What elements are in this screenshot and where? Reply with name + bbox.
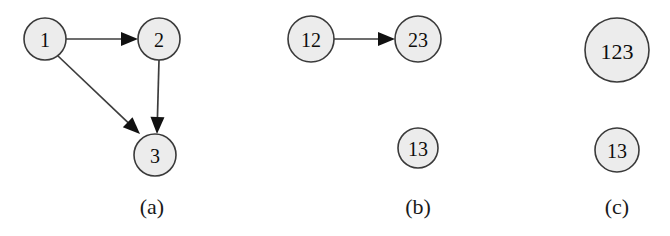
- node-label-a2: 2: [154, 29, 164, 51]
- node-label-b23: 23: [408, 29, 428, 51]
- node-label-b13: 13: [408, 138, 428, 160]
- panel-caption-a: (a): [140, 194, 164, 219]
- panel-group-a: 123(a): [24, 18, 180, 219]
- node-b12[interactable]: 12: [288, 16, 334, 62]
- edge-a-2-3: [150, 60, 164, 134]
- node-label-a3: 3: [150, 145, 160, 167]
- edge-b-12-23: [334, 32, 395, 46]
- edge-line-a-1-3: [58, 56, 129, 124]
- arrowhead-icon-a-1-2: [121, 32, 138, 46]
- edge-a-1-3: [58, 56, 140, 134]
- node-label-b12: 12: [301, 29, 321, 51]
- panel-caption-b: (b): [405, 194, 431, 219]
- panel-group-c: 12313(c): [585, 18, 649, 219]
- arrowhead-icon-a-2-3: [150, 117, 164, 134]
- figure-container: 123(a) 122313(b) 12313(c): [0, 0, 670, 236]
- node-b13[interactable]: 13: [398, 128, 438, 168]
- node-c123[interactable]: 123: [585, 18, 649, 82]
- panel-group-b: 122313(b): [288, 16, 441, 219]
- node-label-a1: 1: [40, 29, 50, 51]
- node-label-c13: 13: [607, 140, 627, 162]
- node-c13[interactable]: 13: [595, 128, 639, 172]
- edge-a-1-2: [66, 32, 138, 46]
- panel-caption-c: (c): [605, 194, 629, 219]
- arrowhead-icon-b-12-23: [378, 32, 395, 46]
- node-a1[interactable]: 1: [24, 18, 66, 60]
- node-a3[interactable]: 3: [134, 134, 176, 176]
- node-b23[interactable]: 23: [395, 16, 441, 62]
- node-label-c123: 123: [601, 39, 634, 64]
- graph-figure: 123(a) 122313(b) 12313(c): [0, 0, 670, 236]
- edge-line-a-2-3: [157, 60, 159, 119]
- node-a2[interactable]: 2: [138, 18, 180, 60]
